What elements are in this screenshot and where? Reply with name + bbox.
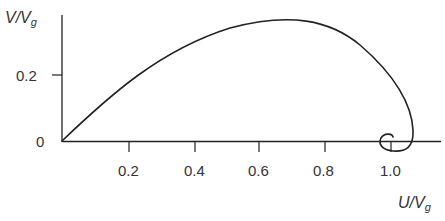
hodograph-curve xyxy=(62,20,413,151)
x-axis-label: U/Vg xyxy=(398,195,431,213)
x-tick-label: 1.0 xyxy=(380,163,401,178)
y-axis-label: V/Vg xyxy=(5,10,37,28)
x-tick-label: 0.6 xyxy=(248,163,269,178)
x-tick-label: 0.2 xyxy=(118,163,139,178)
y-tick-label-0.2: 0.2 xyxy=(16,68,37,83)
x-tick-label: 0.8 xyxy=(313,163,334,178)
x-tick-label: 0.4 xyxy=(184,163,205,178)
origin-label: 0 xyxy=(36,134,44,149)
x-ticks xyxy=(129,141,391,152)
hodograph-chart: V/Vg 0.2 0 0.2 0.4 0.6 0.8 1.0 U/Vg xyxy=(0,0,445,221)
plot-area xyxy=(0,0,445,221)
